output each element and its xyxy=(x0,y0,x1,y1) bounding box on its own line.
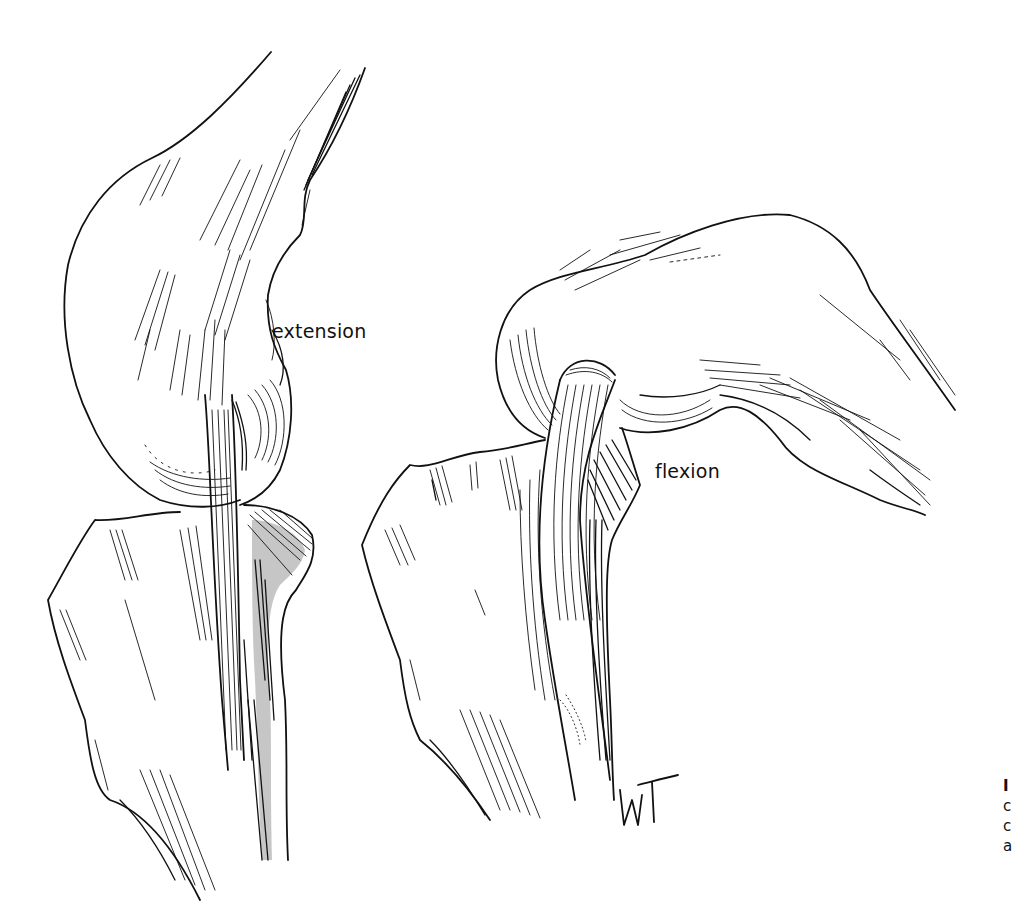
tibia-extension xyxy=(48,505,314,900)
artist-signature xyxy=(620,775,678,825)
femur-extension xyxy=(64,52,365,507)
tibia-flexion xyxy=(362,428,640,820)
caption-line: I xyxy=(1003,776,1012,796)
extension-panel xyxy=(48,52,365,900)
caption-line: a xyxy=(1003,836,1012,856)
caption-fragment: I c c a xyxy=(1003,776,1012,856)
label-flexion: flexion xyxy=(655,460,720,482)
caption-line: c xyxy=(1003,816,1012,836)
flexion-panel xyxy=(362,214,955,825)
patellar-tendon-extension xyxy=(205,395,247,770)
label-extension: extension xyxy=(272,320,366,342)
caption-line: c xyxy=(1003,796,1012,816)
